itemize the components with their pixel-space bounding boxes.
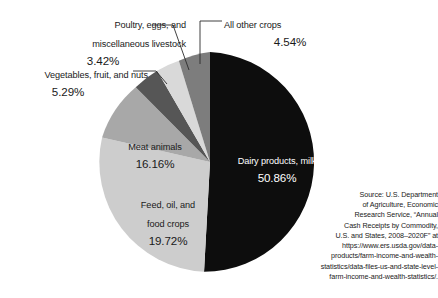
pie-label-all-other-crops-text: All other crops bbox=[224, 20, 281, 30]
pie-label-feed-oil-food-crops: Feed, oil, and food crops 19.72% bbox=[118, 194, 218, 247]
pie-label-feed-line1: Feed, oil, and bbox=[141, 200, 195, 210]
source-line: of Agriculture, Economic bbox=[302, 200, 438, 210]
pie-value-meat: 16.16% bbox=[107, 157, 203, 171]
source-line: U.S. and States, 2008–2020F” at bbox=[302, 231, 438, 241]
pie-value-all-other-crops: 4.54% bbox=[224, 35, 344, 49]
source-line-url: https://www.ers.usda.gov/data- bbox=[302, 241, 438, 251]
source-line: Cash Receipts by Commodity, bbox=[302, 221, 438, 231]
pie-label-vegetables-text: Vegetables, fruit, and nuts bbox=[44, 70, 148, 80]
source-line: Research Service, “Annual bbox=[302, 210, 438, 220]
pie-label-all-other-crops: All other crops 4.54% bbox=[224, 14, 344, 49]
pie-label-poultry-eggs-livestock: Poultry, eggs, and miscellaneous livesto… bbox=[34, 14, 186, 67]
pie-label-meat-animals: Meat animals 16.16% bbox=[107, 136, 203, 171]
pie-label-vegetables-fruit-nuts: Vegetables, fruit, and nuts 5.29% bbox=[6, 64, 148, 99]
pie-chart-figure: Poultry, eggs, and miscellaneous livesto… bbox=[0, 0, 438, 298]
pie-value-feed: 19.72% bbox=[118, 234, 218, 248]
pie-label-dairy-products-milk: Dairy products, milk 50.86% bbox=[216, 150, 338, 185]
source-note: Source: U.S. Department of Agriculture, … bbox=[302, 190, 438, 282]
source-line: Source: U.S. Department bbox=[302, 190, 438, 200]
pie-label-feed-line2: food crops bbox=[147, 219, 189, 229]
source-line-url: statistics/data-files-us-and-state-level… bbox=[302, 262, 438, 272]
pie-label-dairy-text: Dairy products, milk bbox=[238, 156, 317, 166]
pie-label-poultry-line2: miscellaneous livestock bbox=[92, 39, 186, 49]
source-line-url: farm-income-and-wealth-statistics/. bbox=[302, 272, 438, 282]
source-line-url: products/farm-income-and-wealth- bbox=[302, 251, 438, 261]
pie-value-vegetables: 5.29% bbox=[6, 85, 148, 99]
pie-label-poultry-line1: Poultry, eggs, and bbox=[114, 20, 186, 30]
pie-label-meat-text: Meat animals bbox=[128, 142, 181, 152]
pie-value-dairy: 50.86% bbox=[216, 171, 338, 185]
